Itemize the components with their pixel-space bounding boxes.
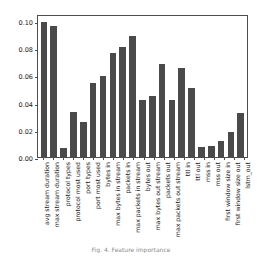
y-axis-tick-label: 0.00 — [19, 155, 33, 163]
x-axis-tick — [144, 157, 145, 160]
bar — [208, 146, 215, 157]
x-axis-tick-label: mss out — [215, 162, 221, 187]
bar — [119, 47, 126, 157]
bar — [50, 26, 57, 157]
x-axis-tick-labels: avg stream durationmax stream durationpr… — [37, 162, 248, 257]
x-axis-tick — [204, 157, 205, 160]
plot-area: 0.000.020.040.060.080.10 — [37, 15, 248, 158]
bar — [41, 22, 48, 158]
x-axis-tick — [214, 157, 215, 160]
bar-series — [38, 16, 247, 157]
x-axis-tick-label: mss in — [205, 162, 211, 182]
x-axis-tick-label: bytes out — [145, 162, 151, 191]
x-axis-tick-label: port types — [85, 162, 91, 194]
x-axis-tick-label: max bytes out stream — [155, 162, 161, 230]
bar — [60, 148, 67, 157]
bar — [80, 122, 87, 157]
x-axis-tick-label: port most used — [95, 162, 101, 209]
bar — [139, 100, 146, 157]
x-axis-tick-label: avg stream duration — [44, 162, 50, 225]
x-axis-tick — [113, 157, 114, 160]
bar — [178, 68, 185, 157]
x-axis-tick — [73, 157, 74, 160]
x-axis-tick — [53, 157, 54, 160]
x-axis-tick-label: max bytes in stream — [115, 162, 121, 226]
bar — [188, 88, 195, 157]
x-axis-tick — [43, 157, 44, 160]
bar — [129, 36, 136, 157]
bar — [70, 112, 77, 157]
x-axis-tick — [83, 157, 84, 160]
x-axis-tick — [63, 157, 64, 160]
x-axis-tick-label: ttl in — [185, 162, 191, 176]
x-axis-tick-label: max packets out stream — [175, 162, 181, 237]
y-axis-tick-label: 0.10 — [19, 19, 33, 27]
x-axis-tick — [133, 157, 134, 160]
bar — [159, 64, 166, 157]
x-axis-tick-label: max stream duration — [54, 162, 60, 227]
y-axis-tick-label: 0.02 — [19, 128, 33, 136]
x-axis-tick-label: lstm_out — [245, 162, 251, 189]
y-axis-tick-label: 0.04 — [19, 101, 33, 109]
x-axis-tick — [174, 157, 175, 160]
x-axis-tick-label: packets out — [165, 162, 171, 198]
x-axis-tick-label: packets in — [125, 162, 131, 194]
x-axis-tick-label: max packets in stream — [135, 162, 141, 233]
figure-bar-chart: 0.000.020.040.060.080.10 avg stream dura… — [0, 0, 262, 257]
x-axis-tick — [244, 157, 245, 160]
bar — [100, 76, 107, 157]
x-axis-tick — [234, 157, 235, 160]
x-axis-tick — [194, 157, 195, 160]
bar — [198, 147, 205, 157]
x-axis-tick-label: bytes in — [105, 162, 111, 187]
bar — [169, 100, 176, 157]
bar — [149, 96, 156, 157]
bar — [218, 141, 225, 157]
x-axis-tick — [93, 157, 94, 160]
bar — [110, 53, 117, 157]
x-axis-tick — [224, 157, 225, 160]
x-axis-tick — [123, 157, 124, 160]
figure-caption: Fig. 4. Feature importance — [0, 246, 262, 253]
x-axis-tick-label: protocol types — [65, 162, 71, 206]
x-axis-tick — [184, 157, 185, 160]
x-axis-tick — [164, 157, 165, 160]
y-axis-tick — [35, 159, 38, 160]
x-axis-tick-label: ttl out — [195, 162, 201, 181]
y-axis-tick-label: 0.08 — [19, 46, 33, 54]
x-axis-tick-label: protocol most used — [75, 162, 81, 222]
x-axis-tick — [154, 157, 155, 160]
y-axis-tick-label: 0.06 — [19, 73, 33, 81]
bar — [237, 113, 244, 157]
x-axis-tick-label: first window size out — [235, 162, 241, 226]
x-axis-tick — [103, 157, 104, 160]
bar — [90, 83, 97, 157]
x-axis-tick-label: first window size in — [225, 162, 231, 221]
bar — [228, 132, 235, 157]
